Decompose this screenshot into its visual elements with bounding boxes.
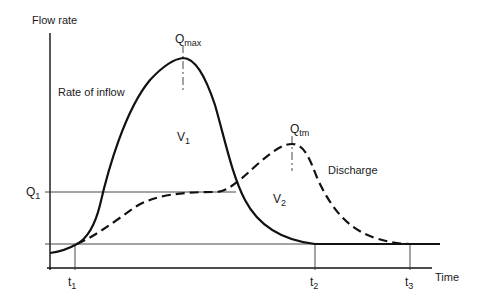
x-axis-label: Time (435, 272, 459, 283)
v2-label: V2 (273, 193, 286, 208)
hydrograph-diagram (0, 0, 487, 306)
inflow-label: Rate of inflow (58, 87, 125, 98)
discharge-curve (77, 144, 410, 244)
qtm-label: Qtm (290, 123, 309, 138)
discharge-label: Discharge (328, 165, 378, 176)
q1-label: Q1 (26, 186, 40, 201)
t3-label: t3 (405, 276, 413, 291)
qmax-label: Qmax (175, 33, 201, 48)
v1-label: V1 (177, 131, 190, 146)
t1-label: t1 (68, 276, 76, 291)
t2-label: t2 (310, 276, 318, 291)
y-axis-label: Flow rate (32, 15, 77, 26)
